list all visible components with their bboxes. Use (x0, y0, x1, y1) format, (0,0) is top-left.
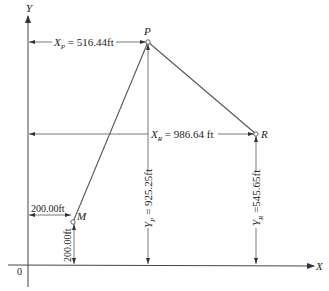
point-m: M (71, 210, 87, 224)
dimension-yr: YR =545.65ft (250, 136, 265, 264)
origin-label: 0 (17, 266, 22, 277)
dimension-xr-label: XR = 986.64 ft (150, 128, 213, 143)
svg-text:M: M (76, 210, 87, 222)
dimension-yp-label: YP = 925.25ft (142, 169, 157, 228)
segment-m-p (73, 42, 148, 222)
dimension-m-y: 200.00ft (62, 224, 74, 264)
x-axis-label: X (315, 260, 324, 272)
segment-p-r (148, 42, 256, 134)
dimension-yp: YP = 925.25ft (142, 44, 157, 264)
point-p: P (143, 25, 151, 44)
dimension-m-x: 200.00ft (29, 203, 71, 215)
dimension-m-x-label: 200.00ft (31, 203, 65, 214)
svg-text:R: R (260, 128, 268, 140)
dimension-yr-label: YR =545.65ft (250, 170, 265, 226)
dimension-m-y-label: 200.00ft (62, 228, 73, 262)
svg-text:P: P (143, 25, 151, 37)
x-axis: X (8, 260, 324, 272)
dimension-xr: XR = 986.64 ft (29, 128, 254, 143)
dimension-xp-label: XP = 516.44ft (53, 36, 114, 51)
coordinate-diagram: Y X 0 P R M XP = 516.44ft XR = 986.64 ft (0, 0, 329, 291)
dimension-xp: XP = 516.44ft (29, 36, 146, 51)
y-axis-label: Y (26, 2, 34, 14)
y-axis: Y (26, 2, 34, 287)
